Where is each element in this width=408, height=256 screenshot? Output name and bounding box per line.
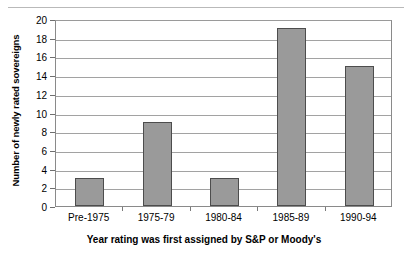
bar [143,122,172,206]
y-axis-tick-label: 6 [41,145,47,156]
y-axis-tick-label: 0 [41,202,47,213]
x-axis-title: Year rating was first assigned by S&P or… [0,234,408,245]
y-axis-tick-label: 12 [36,89,47,100]
x-axis-tick-label: 1990-94 [340,212,377,223]
plot-area [55,20,392,207]
bar [75,178,104,206]
y-axis-tick-label: 2 [41,183,47,194]
x-axis-tick-label: Pre-1975 [68,212,109,223]
y-axis-tick-label: 16 [36,52,47,63]
bar-chart: Number of newly rated sovereigns 0246810… [0,0,408,256]
x-axis-tick [257,207,258,211]
y-axis-tick-label: 8 [41,127,47,138]
x-axis-tick-label: 1980-84 [205,212,242,223]
top-edge-artifact [8,7,404,8]
x-axis-tick [122,207,123,211]
x-axis-tick-label: 1975-79 [138,212,175,223]
y-axis-tick-labels: 02468101214161820 [0,0,55,256]
bars-layer [56,21,391,206]
x-axis-tick [325,207,326,211]
bar [277,28,306,206]
x-axis-tick-label: 1985-89 [273,212,310,223]
bar [210,178,239,206]
y-axis-tick-label: 4 [41,164,47,175]
y-axis-tick-label: 14 [36,71,47,82]
y-axis-tick-label: 20 [36,15,47,26]
x-axis-tick [190,207,191,211]
x-axis-tick-labels: Pre-19751975-791980-841985-891990-94 [55,212,392,228]
bar [345,66,374,206]
y-axis-tick-label: 10 [36,108,47,119]
y-axis-tick-label: 18 [36,33,47,44]
